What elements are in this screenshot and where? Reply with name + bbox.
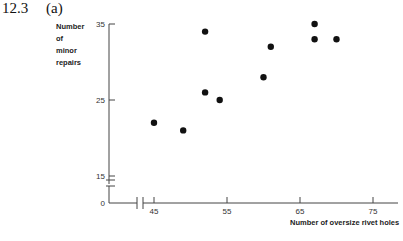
- data-point: [333, 36, 339, 42]
- x-tick-label: 75: [369, 207, 378, 216]
- data-point: [202, 89, 208, 95]
- x-tick-label: 45: [150, 207, 159, 216]
- data-point: [202, 28, 208, 34]
- data-point: [151, 120, 157, 126]
- scatter-plot: 015253545556575: [0, 0, 403, 241]
- data-point: [311, 21, 317, 27]
- data-point: [180, 127, 186, 133]
- x-tick-label: 65: [296, 207, 305, 216]
- y-tick-label: 35: [96, 20, 105, 29]
- x-tick-label: 55: [223, 207, 232, 216]
- y-tick-label: 0: [101, 199, 106, 208]
- data-point: [268, 44, 274, 50]
- y-tick-label: 25: [96, 96, 105, 105]
- data-point: [260, 74, 266, 80]
- data-point: [217, 97, 223, 103]
- y-tick-label: 15: [96, 172, 105, 181]
- data-point: [311, 36, 317, 42]
